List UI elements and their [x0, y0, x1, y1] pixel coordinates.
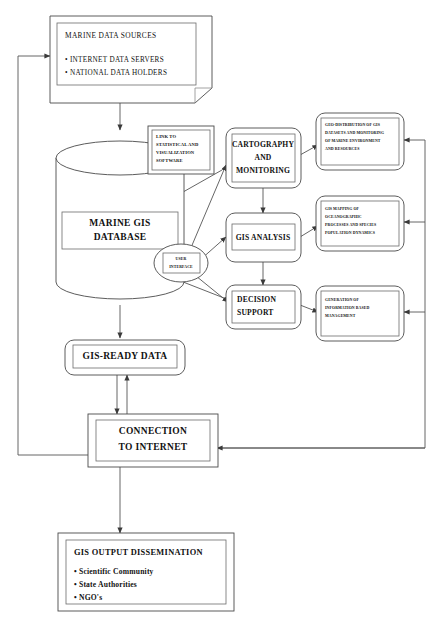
marine-data-sources-bullet-1: • NATIONAL DATA HOLDERS [65, 69, 167, 77]
geo-distribution-line-1: DATASETS AND MONITORING [325, 131, 384, 135]
node-gis-output-dissemination[interactable]: GIS OUTPUT DISSEMINATION • Scientific Co… [58, 533, 234, 611]
node-gis-mapping[interactable]: GIS MAPPING OF OCEANOGRAPHIC PROCESSES A… [316, 196, 404, 251]
decision-support-line-0: DECISION [237, 295, 276, 304]
node-marine-data-sources[interactable]: MARINE DATA SOURCES • INTERNET DATA SERV… [50, 16, 212, 103]
diagram-canvas: MARINE DATA SOURCES • INTERNET DATA SERV… [0, 0, 443, 636]
gis-mapping-line-2: PROCESSES AND SPECIES [325, 223, 376, 227]
node-link-software[interactable]: LINK TO STATISTICAL AND VISUALIZATION SO… [148, 126, 214, 174]
gis-output-dissemination-bullet-2: • NGO's [74, 593, 102, 602]
user-interface-line1: USER [176, 257, 187, 261]
gis-output-dissemination-bullet-1: • State Authorities [74, 580, 137, 589]
information-management-line-2: MANAGEMENT [325, 314, 356, 318]
gis-mapping-line-0: GIS MAPPING OF [325, 207, 360, 211]
node-cartography-monitoring[interactable]: CARTOGRAPHY AND MONITORING [226, 128, 301, 188]
marine-data-sources-title: MARINE DATA SOURCES [65, 31, 156, 40]
marine-gis-database-line2: DATABASE [94, 232, 147, 242]
cartography-monitoring-line-1: AND [254, 153, 271, 162]
node-geo-distribution[interactable]: GEO-DISTRIBUTION OF GIS DATASETS AND MON… [316, 113, 404, 170]
gis-output-dissemination-bullet-0: • Scientific Community [74, 567, 154, 576]
gis-mapping-line-3: POPULATION DYNAMICS [325, 231, 375, 235]
connection-internet-line2: TO INTERNET [119, 442, 188, 452]
geo-distribution-line-3: AND RESOURCES [325, 147, 359, 151]
node-information-management[interactable]: GENERATION OF INFORMATION BASED MANAGEME… [316, 286, 404, 341]
cartography-monitoring-line-0: CARTOGRAPHY [232, 140, 294, 149]
link-software-line-1: STATISTICAL AND [156, 142, 199, 147]
node-user-interface[interactable]: USER INTERFACE [154, 244, 208, 282]
connection-internet-line1: CONNECTION [119, 426, 187, 436]
user-interface-line2: INTERFACE [169, 265, 193, 269]
connector-decision-to-informationmgmt [300, 305, 318, 312]
gis-ready-data-line-0: GIS-READY DATA [82, 351, 167, 361]
connector-analysis-to-gismapping [300, 226, 318, 237]
node-connection-internet[interactable]: CONNECTION TO INTERNET [88, 414, 218, 467]
node-gis-analysis[interactable]: GIS ANALYSIS [226, 213, 301, 262]
marine-gis-database-line1: MARINE GIS [89, 218, 150, 228]
node-gis-ready-data[interactable]: GIS-READY DATA [65, 340, 185, 375]
link-software-line-2: VISUALIZATION [156, 150, 195, 155]
marine-data-sources-bullet-0: • INTERNET DATA SERVERS [65, 56, 164, 64]
information-management-line-0: GENERATION OF [325, 298, 359, 302]
connector-cartography-to-geodistribution [300, 145, 318, 155]
link-software-line-0: LINK TO [156, 134, 176, 139]
gis-analysis-line-0: GIS ANALYSIS [236, 233, 291, 242]
link-software-line-3: SOFTWARE [156, 158, 183, 163]
gis-output-dissemination-title: GIS OUTPUT DISSEMINATION [74, 548, 203, 557]
cartography-monitoring-line-2: MONITORING [236, 166, 290, 175]
geo-distribution-line-0: GEO-DISTRIBUTION OF GIS [325, 123, 380, 127]
decision-support-line-1: SUPPORT [237, 308, 274, 317]
diagram-root: MARINE DATA SOURCES • INTERNET DATA SERV… [0, 0, 443, 636]
node-decision-support[interactable]: DECISION SUPPORT [226, 285, 301, 329]
gis-mapping-line-1: OCEANOGRAPHIC [325, 215, 362, 219]
geo-distribution-line-2: OF MARINE ENVIRONMENT [325, 139, 381, 143]
information-management-line-1: INFORMATION BASED [325, 306, 369, 310]
